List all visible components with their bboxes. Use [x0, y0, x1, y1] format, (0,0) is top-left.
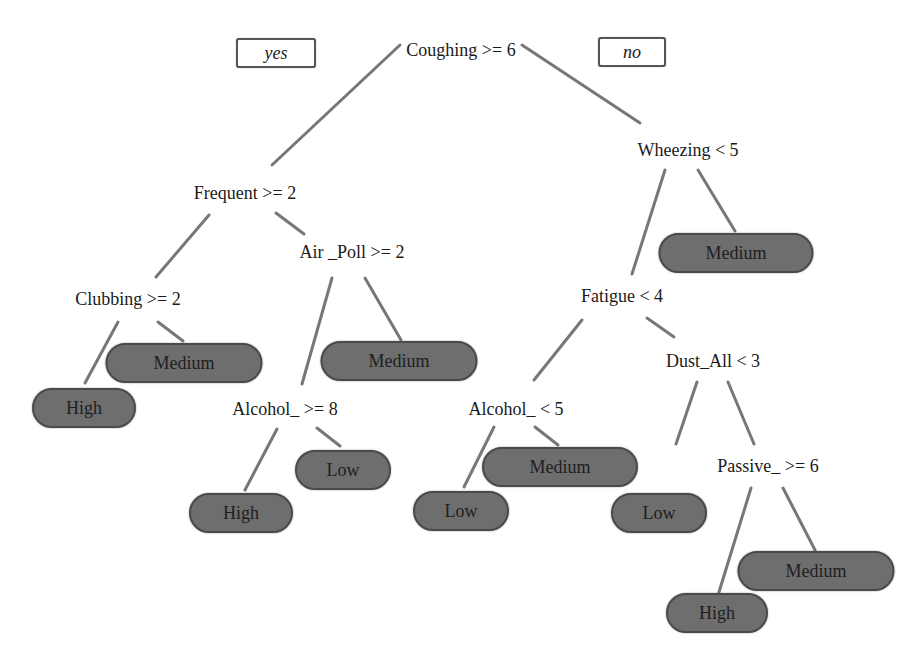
leaf-label: Low: [445, 500, 478, 522]
split-alcohol-lt5-label: Alcohol_ < 5: [468, 399, 563, 419]
edge-fatigue-dust: [647, 318, 674, 337]
leaf-label: Medium: [786, 560, 847, 582]
edge-airpoll-medium: [365, 278, 401, 340]
leaf-wheezing-medium[interactable]: Medium: [659, 233, 814, 273]
split-passive[interactable]: Passive_ >= 6: [717, 455, 818, 477]
edge-clubbing-medium: [158, 322, 183, 341]
leaf-label: High: [66, 397, 102, 419]
legend-no-label: no: [623, 42, 641, 63]
split-frequent-label: Frequent >= 2: [194, 183, 296, 203]
leaf-air-poll-medium[interactable]: Medium: [321, 341, 478, 381]
root-label: Coughing >= 6: [406, 40, 515, 60]
leaf-passive-high[interactable]: High: [666, 593, 768, 633]
split-alcohol-ge8-label: Alcohol_ >= 8: [232, 399, 337, 419]
leaf-passive-medium[interactable]: Medium: [738, 551, 895, 591]
split-frequent[interactable]: Frequent >= 2: [194, 182, 296, 204]
edge-fatigue-alcohol5: [534, 320, 582, 380]
edge-alcohol8-high: [245, 429, 277, 490]
leaf-label: Medium: [706, 242, 767, 264]
leaf-alcohol-ge8-high[interactable]: High: [189, 493, 293, 533]
split-wheezing-label: Wheezing < 5: [637, 140, 738, 160]
split-alcohol-ge8[interactable]: Alcohol_ >= 8: [232, 398, 337, 420]
split-clubbing[interactable]: Clubbing >= 2: [75, 288, 180, 310]
edge-passive-medium: [783, 488, 815, 550]
legend-yes-label: yes: [265, 43, 288, 64]
legend-yes: yes: [236, 38, 316, 68]
edge-dust-low: [676, 382, 697, 444]
leaf-label: Medium: [530, 456, 591, 478]
edge-alcohol5-medium: [535, 427, 558, 445]
leaf-alcohol-ge8-low[interactable]: Low: [295, 450, 391, 490]
split-fatigue[interactable]: Fatigue < 4: [581, 285, 663, 307]
edge-alcohol8-low: [317, 428, 340, 446]
leaf-label: Medium: [369, 350, 430, 372]
leaf-label: High: [223, 502, 259, 524]
split-dust-all-label: Dust_All < 3: [666, 351, 760, 371]
split-clubbing-label: Clubbing >= 2: [75, 289, 180, 309]
split-wheezing[interactable]: Wheezing < 5: [637, 139, 738, 161]
leaf-alcohol-lt5-medium[interactable]: Medium: [482, 447, 638, 487]
edge-frequent-clubbing: [156, 215, 209, 277]
split-air-poll-label: Air _Poll >= 2: [300, 242, 405, 262]
leaf-clubbing-medium[interactable]: Medium: [106, 343, 263, 383]
root-node[interactable]: Coughing >= 6: [406, 39, 515, 61]
leaf-label: Low: [327, 459, 360, 481]
edge-wheezing-medium: [698, 170, 735, 231]
split-air-poll[interactable]: Air _Poll >= 2: [300, 241, 405, 263]
split-alcohol-lt5[interactable]: Alcohol_ < 5: [468, 398, 563, 420]
edge-frequent-airpoll: [276, 213, 304, 234]
leaf-dust-all-low[interactable]: Low: [611, 493, 707, 533]
leaf-label: Medium: [154, 352, 215, 374]
split-fatigue-label: Fatigue < 4: [581, 286, 663, 306]
leaf-label: High: [699, 602, 735, 624]
leaf-clubbing-high[interactable]: High: [32, 388, 136, 428]
edge-dust-passive: [728, 382, 754, 444]
legend-no: no: [598, 37, 666, 67]
leaf-label: Low: [643, 502, 676, 524]
split-passive-label: Passive_ >= 6: [717, 456, 818, 476]
split-dust-all[interactable]: Dust_All < 3: [666, 350, 760, 372]
leaf-alcohol-lt5-low[interactable]: Low: [413, 491, 509, 531]
